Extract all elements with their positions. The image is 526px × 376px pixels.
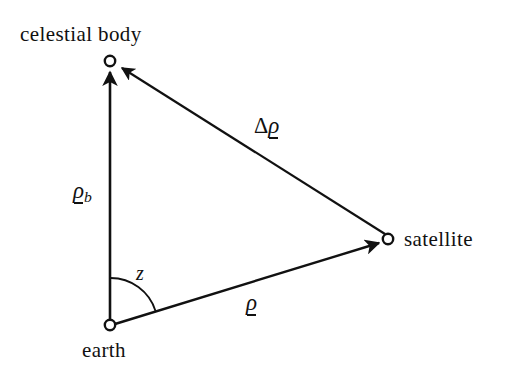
vertex-marker-earth	[105, 320, 115, 330]
label-vector-rho: ρ	[246, 291, 257, 314]
vertex-marker-satellite	[383, 234, 393, 244]
vertex-marker-celestial-body	[105, 56, 115, 66]
vector-delta-rho-line	[122, 68, 385, 234]
delta-symbol: Δ	[254, 113, 268, 138]
label-angle-z: z	[136, 263, 144, 283]
label-vector-rho-b: ρb	[73, 179, 92, 205]
rho-symbol: ρ	[246, 291, 257, 314]
rho-symbol: ρ	[73, 179, 84, 202]
subscript-b: b	[84, 188, 92, 205]
label-satellite: satellite	[404, 229, 473, 250]
rho-symbol: ρ	[268, 114, 279, 137]
label-celestial-body: celestial body	[20, 24, 142, 45]
diagram-canvas: celestial body earth satellite Δρ ρb ρ z	[0, 0, 526, 376]
label-earth: earth	[82, 340, 126, 361]
label-vector-delta-rho: Δρ	[254, 114, 279, 137]
angle-arc-z	[110, 278, 156, 311]
